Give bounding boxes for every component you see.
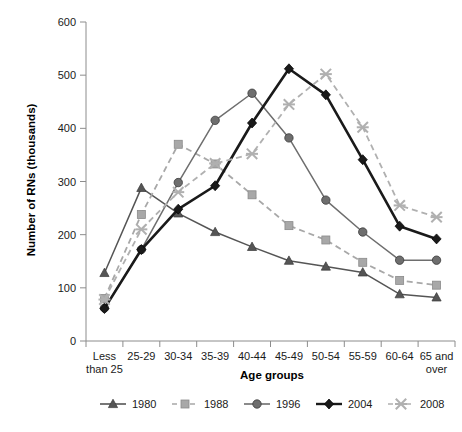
y-tick-label: 500	[58, 69, 76, 81]
series-line-2008	[104, 74, 436, 299]
legend-label-1980: 1980	[132, 398, 156, 410]
y-tick-label: 200	[58, 229, 76, 241]
x-category-label-line2: over	[426, 363, 448, 375]
data-point-2008-45-49	[283, 99, 295, 109]
x-category-label: 55-59	[349, 350, 377, 362]
data-point-1988-60-64	[396, 276, 404, 284]
legend-label-1996: 1996	[276, 398, 300, 410]
y-tick-label: 100	[58, 282, 76, 294]
legend-label-1988: 1988	[204, 398, 228, 410]
data-point-1996-30-34	[174, 178, 182, 186]
y-axis-ticks	[80, 22, 86, 341]
x-category-label: 45-49	[275, 350, 303, 362]
y-tick-label: 400	[58, 122, 76, 134]
series-line-1988	[104, 144, 436, 298]
data-point-1996-50-54	[322, 196, 330, 204]
chart-container: Number of RNs (thousands) 01002003004005…	[0, 0, 462, 432]
series-group	[98, 64, 442, 314]
x-category-label: 65 and	[420, 350, 454, 362]
x-axis-ticks	[86, 341, 455, 347]
data-point-1980-25-29	[137, 183, 146, 191]
data-point-1996-40-44	[248, 89, 256, 97]
legend-label-2004: 2004	[348, 398, 372, 410]
series-1980	[100, 183, 441, 301]
legend-marker-2004	[324, 399, 333, 409]
legend-item-1988[interactable]: 1988	[172, 398, 228, 410]
data-point-1988-30-34	[174, 140, 182, 148]
data-point-2008-30-34	[172, 187, 184, 197]
data-point-2008-55-59	[357, 122, 369, 132]
data-point-1988-50-54	[322, 236, 330, 244]
legend-item-2004[interactable]: 2004	[316, 398, 372, 410]
x-category-label: 30-34	[164, 350, 192, 362]
legend-item-2008[interactable]: 2008	[388, 398, 444, 410]
x-category-label: 25-29	[127, 350, 155, 362]
data-point-1996-60-64	[395, 256, 403, 264]
x-category-label-line2: than 25	[86, 363, 123, 375]
legend-label-2008: 2008	[420, 398, 444, 410]
legend-marker-1996	[253, 400, 261, 408]
data-point-1980-Less than 25	[100, 268, 109, 276]
x-category-label: 35-39	[201, 350, 229, 362]
data-point-1996-45-49	[285, 134, 293, 142]
data-point-1988-65 and over	[433, 281, 441, 289]
legend-item-1980[interactable]: 1980	[100, 398, 156, 410]
data-point-1988-25-29	[137, 210, 145, 218]
x-category-label: Less	[93, 350, 117, 362]
data-point-2008-40-44	[246, 149, 258, 159]
data-point-1980-60-64	[395, 289, 404, 297]
data-point-1988-55-59	[359, 258, 367, 266]
x-category-label: 60-64	[386, 350, 414, 362]
x-category-label: 50-54	[312, 350, 340, 362]
data-point-2008-25-29	[135, 224, 147, 234]
data-point-2008-65 and over	[431, 212, 443, 222]
series-1988	[100, 140, 440, 302]
chart-legend: 19801988199620042008	[100, 398, 444, 410]
data-point-1988-40-44	[248, 191, 256, 199]
y-tick-label: 300	[58, 176, 76, 188]
series-1996	[100, 89, 440, 312]
legend-marker-2008	[395, 399, 407, 409]
legend-item-1996[interactable]: 1996	[244, 398, 300, 410]
data-point-1980-35-39	[211, 227, 220, 235]
data-point-2004-65 and over	[432, 234, 441, 244]
x-axis-title: Age groups	[240, 369, 304, 381]
data-point-1988-45-49	[285, 222, 293, 230]
data-point-1996-55-59	[359, 228, 367, 236]
rn-age-distribution-line-chart: Number of RNs (thousands) 01002003004005…	[0, 0, 462, 432]
y-axis-title: Number of RNs (thousands)	[25, 103, 37, 256]
data-point-1996-35-39	[211, 116, 219, 124]
y-tick-label: 0	[70, 335, 76, 347]
y-tick-label: 600	[58, 16, 76, 28]
legend-marker-1988	[181, 400, 189, 408]
data-point-2008-60-64	[394, 200, 406, 210]
data-point-1996-65 and over	[432, 256, 440, 264]
y-axis-tick-labels: 0100200300400500600	[58, 16, 76, 347]
data-point-2008-50-54	[320, 69, 332, 79]
x-category-label: 40-44	[238, 350, 266, 362]
series-2008	[98, 69, 442, 305]
